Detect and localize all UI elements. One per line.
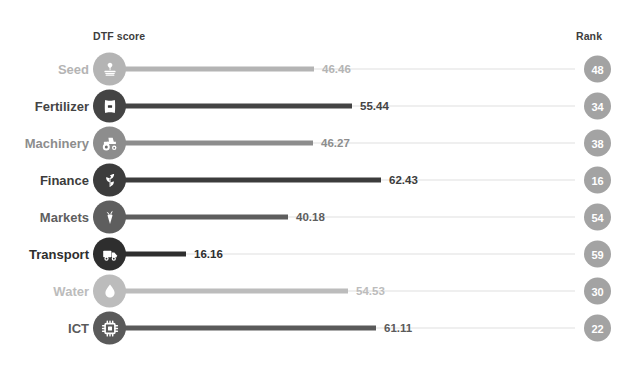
value-bar xyxy=(118,289,348,294)
chart-row: Markets40.1854 xyxy=(0,199,623,235)
rank-badge: 22 xyxy=(584,315,611,342)
value-bar xyxy=(118,67,314,72)
chart-row: Transport16.1659 xyxy=(0,236,623,272)
chart-row: ICT61.1122 xyxy=(0,310,623,346)
value-bar xyxy=(118,252,186,257)
value-label: 16.16 xyxy=(194,248,223,260)
row-background-track xyxy=(125,253,575,255)
value-bar xyxy=(118,326,376,331)
value-label: 40.18 xyxy=(296,211,325,223)
coin-plant-icon xyxy=(93,164,126,197)
category-label: Markets xyxy=(40,210,89,225)
truck-icon xyxy=(93,238,126,271)
category-label: ICT xyxy=(68,321,89,336)
value-label: 54.53 xyxy=(356,285,385,297)
chart-row: Seed46.4648 xyxy=(0,51,623,87)
value-label: 55.44 xyxy=(360,100,389,112)
fertilizer-bag-icon xyxy=(93,90,126,123)
microchip-icon xyxy=(93,312,126,345)
value-label: 62.43 xyxy=(389,174,418,186)
rank-column-header: Rank xyxy=(576,30,602,42)
dtf-score-column-header: DTF score xyxy=(93,30,145,42)
category-label: Finance xyxy=(40,173,89,188)
category-label: Water xyxy=(53,284,89,299)
rank-badge: 34 xyxy=(584,93,611,120)
value-bar xyxy=(118,178,381,183)
value-label: 46.27 xyxy=(321,137,350,149)
category-label: Machinery xyxy=(25,136,89,151)
category-label: Fertilizer xyxy=(35,99,89,114)
rank-badge: 54 xyxy=(584,204,611,231)
value-label: 61.11 xyxy=(384,322,412,334)
seed-sprout-icon xyxy=(93,53,126,86)
tractor-icon xyxy=(93,127,126,160)
value-bar xyxy=(118,104,352,109)
value-bar xyxy=(118,141,313,146)
rank-badge: 48 xyxy=(584,56,611,83)
rank-badge: 59 xyxy=(584,241,611,268)
rank-badge: 30 xyxy=(584,278,611,305)
chart-row: Fertilizer55.4434 xyxy=(0,88,623,124)
value-bar xyxy=(118,215,288,220)
rank-badge: 38 xyxy=(584,130,611,157)
chart-row: Water54.5330 xyxy=(0,273,623,309)
carrot-icon xyxy=(93,201,126,234)
category-label: Transport xyxy=(29,247,89,262)
dtf-score-lollipop-chart: DTF score Rank Seed46.4648Fertilizer55.4… xyxy=(0,0,623,375)
category-label: Seed xyxy=(58,62,89,77)
water-drop-icon xyxy=(93,275,126,308)
chart-row: Finance62.4316 xyxy=(0,162,623,198)
rank-badge: 16 xyxy=(584,167,611,194)
value-label: 46.46 xyxy=(322,63,351,75)
chart-row: Machinery46.2738 xyxy=(0,125,623,161)
